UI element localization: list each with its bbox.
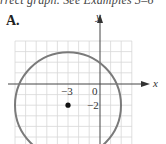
y-axis-label: y <box>95 10 101 22</box>
tick-label-y-neg2: −2 <box>87 99 99 111</box>
circle-graph: x y −3 0 −2 <box>0 0 166 144</box>
x-axis-arrow-icon <box>141 81 150 87</box>
tick-label-origin: 0 <box>92 85 98 97</box>
tick-label-x-neg3: −3 <box>61 85 73 97</box>
x-axis-label: x <box>152 77 158 89</box>
center-dot <box>65 103 70 108</box>
grid <box>15 41 132 144</box>
